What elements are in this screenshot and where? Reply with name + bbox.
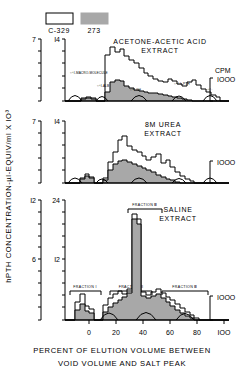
y-axis-inner-p2: I4 (54, 118, 65, 183)
y-tick-left-p2-0: 7 (32, 118, 36, 125)
series-filled-p1 (65, 80, 229, 101)
y-axis-left-p2: 7 (32, 118, 41, 183)
marker-label-p1-3: ¹²⁵I-h‐PTH (174, 82, 190, 86)
x-axis-title-line1: PERCENT OF ELUTION VOLUME BETWEEN (33, 346, 210, 355)
marker-label-p1-4: ¹²⁵I⁻ (206, 88, 213, 92)
panel-acetone-acetic-acid: ACETONE-ACETIC ACID EXTRACT 7 I4 ¹²⁵I-MA… (32, 36, 236, 101)
y-tick-inner-p3-1: I2 (54, 256, 60, 263)
y-axis-left-p1: 7 (32, 36, 41, 101)
x-tick-3: 60 (166, 329, 174, 336)
panel-8m-urea: 8M UREA EXTRACT 7 I4 IOOO (32, 118, 236, 183)
y-axis-inner-p3: 24 I2 (52, 197, 65, 320)
cpm-scale-p1: CPM IOOO (210, 67, 236, 101)
y-tick-left-p3-0: I2 (30, 197, 36, 204)
y-axis-inner-p1: I4 (54, 36, 65, 101)
x-tick-4: 80 (193, 329, 201, 336)
y-tick-inner-p1-0: I4 (54, 36, 60, 43)
legend-label-open: C-329 (48, 27, 70, 34)
fraction-label-0: FRACTION I (73, 285, 96, 289)
x-tick-2: 40 (139, 329, 147, 336)
legend-label-filled: 273 (87, 27, 100, 34)
cpm-value-p2: IOOO (217, 159, 236, 166)
x-axis-p3: 0 20 40 60 80 IOO (65, 320, 231, 336)
peak-annotation-label: FRACTION Ⅲ (132, 203, 157, 207)
cpm-label-p1: CPM (215, 67, 231, 74)
series-filled-p3 (65, 219, 229, 320)
figure-panel-chromatography: C-329 273 hPTH CONCENTRATION-µl-EQUIV/ml… (0, 0, 240, 378)
marker-label-p1-2: ¹²⁵I-GH (130, 88, 141, 92)
panel-title-line2: EXTRACT (141, 47, 179, 54)
series-filled-p2 (65, 160, 229, 183)
marker-label-p1-1: ¹²⁵I-ALB (97, 84, 109, 88)
peak-annotation-p3: FRACTION Ⅲ (128, 203, 162, 213)
y-axis-title: hPTH CONCENTRATION-µl-EQUIV/ml X IO³ (4, 109, 13, 283)
cpm-scale-p3: IOOO (210, 294, 236, 320)
y-tick-left-p3-1: 6 (32, 256, 36, 263)
marker-label-p1-0: ¹²⁵I-MACRO-MOLECULE (70, 71, 108, 75)
cpm-value-p1: IOOO (217, 76, 236, 83)
fraction-label-2: FRACTION Ⅲ (172, 285, 197, 289)
panel-title3-line2: EXTRACT (159, 215, 197, 222)
panel-saline: SALINE EXTRACT I2 6 24 I2 FRACTION Ⅲ FRA… (30, 197, 236, 336)
x-tick-5: IOO (218, 329, 231, 336)
panel-title-line1: ACETONE-ACETIC ACID (113, 38, 206, 45)
panel-title2-line1: 8M UREA (145, 121, 181, 128)
panel-title2-line2: EXTRACT (144, 130, 182, 137)
legend-swatch-open (46, 13, 73, 24)
x-axis-title-line2: VOID VOLUME AND SALT PEAK (58, 359, 186, 368)
y-axis-left-p3: I2 6 (30, 197, 41, 320)
cpm-value-p3: IOOO (217, 294, 236, 301)
panel-title3-line1: SALINE (163, 206, 192, 213)
y-tick-inner-p3-0: 24 (52, 197, 60, 204)
legend: C-329 273 (46, 13, 108, 34)
y-tick-inner-p2-0: I4 (54, 118, 60, 125)
y-tick-left-p1-0: 7 (32, 36, 36, 43)
x-tick-1: 20 (112, 329, 120, 336)
legend-swatch-filled (81, 13, 108, 24)
x-tick-0: 0 (87, 329, 91, 336)
chart-svg: C-329 273 hPTH CONCENTRATION-µl-EQUIV/ml… (0, 0, 240, 378)
